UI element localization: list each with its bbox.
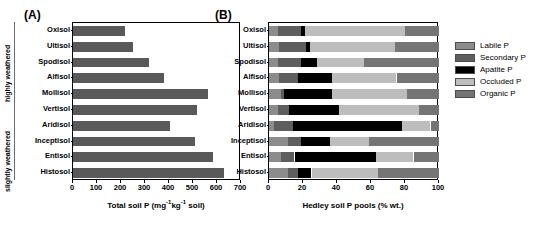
x-axis-tick-label: 20 [298, 184, 306, 192]
stack-segment-apatite-p [301, 137, 330, 147]
stack-segment-organic-p [378, 168, 439, 178]
stack-segment-organic-p [364, 58, 439, 68]
stack-segment-labile-p [269, 137, 288, 147]
table-row [269, 137, 437, 147]
panel-b-y-labels: OxisolUltisolSpodisolAlfisolMollisolVert… [212, 22, 266, 180]
stack-segment-organic-p [431, 121, 440, 131]
x-axis-tick-label: 100 [90, 184, 103, 192]
stack-segment-secondary-p [278, 26, 302, 36]
total-p-bar [73, 89, 208, 99]
category-label: Vertisol [43, 105, 70, 113]
legend-label: Occluded P [480, 77, 521, 87]
stack-segment-occluded-p [312, 168, 378, 178]
stack-segment-occluded-p [330, 137, 369, 147]
category-label: Ultisol [47, 42, 70, 50]
x-axis-tick-label: 0 [70, 184, 74, 192]
category-label: Aridisol [42, 121, 70, 129]
stack-segment-labile-p [269, 73, 279, 83]
stack-segment-occluded-p [310, 42, 395, 52]
category-label: Oxisol [243, 26, 266, 34]
table-row [269, 73, 437, 83]
total-p-bar [73, 168, 224, 178]
legend-swatch-occluded-p [455, 78, 475, 86]
stack-segment-secondary-p [281, 152, 295, 162]
panel-b-legend: Labile PSecondary PApatite POccluded POr… [455, 42, 539, 104]
total-p-bar [73, 73, 164, 83]
x-axis-tick-label: 200 [114, 184, 127, 192]
stack-segment-organic-p [395, 42, 439, 52]
stack-segment-apatite-p [298, 168, 312, 178]
stack-segment-apatite-p [293, 121, 402, 131]
table-row [269, 42, 437, 52]
stack-segment-apatite-p [295, 152, 377, 162]
legend-swatch-secondary-p [455, 54, 475, 62]
x-axis-tick-label: 300 [138, 184, 151, 192]
stack-segment-organic-p [414, 152, 440, 162]
table-row [269, 168, 437, 178]
panel-b-plot-area [268, 22, 438, 180]
x-axis-tick-label: 80 [400, 184, 408, 192]
total-p-bar [73, 121, 170, 131]
stack-segment-organic-p [369, 137, 439, 147]
table-row [269, 105, 437, 115]
panel-a-tag: (A) [24, 8, 41, 22]
stack-segment-labile-p [269, 152, 281, 162]
category-label: Spodisol [38, 58, 70, 66]
stack-segment-secondary-p [288, 137, 302, 147]
stack-segment-occluded-p [402, 121, 431, 131]
category-label: Histosol [236, 168, 266, 176]
stack-segment-occluded-p [332, 73, 397, 83]
category-label: Entisol [241, 152, 266, 160]
x-axis-tick-label: 60 [366, 184, 374, 192]
stack-segment-labile-p [269, 168, 288, 178]
table-row [269, 89, 437, 99]
legend-label: Labile P [480, 41, 509, 51]
category-label: Entisol [45, 152, 70, 160]
total-p-bar [73, 42, 133, 52]
x-axis-tick-label: 0 [266, 184, 270, 192]
stack-segment-apatite-p [289, 105, 338, 115]
stack-segment-labile-p [269, 58, 278, 68]
legend-label: Organic P [480, 89, 516, 99]
panel-b: (B) OxisolUltisolSpodisolAlfisolMollisol… [210, 0, 539, 227]
stack-segment-organic-p [419, 105, 439, 115]
category-label: Ultisol [243, 42, 266, 50]
x-axis-tick-label: 500 [186, 184, 199, 192]
category-label: Histosol [40, 168, 70, 176]
total-p-bar [73, 26, 125, 36]
category-label: Vertisol [239, 105, 266, 113]
stack-segment-secondary-p [288, 168, 298, 178]
stack-segment-secondary-p [278, 105, 290, 115]
category-label: Inceptisol [35, 137, 70, 145]
x-axis-tick-label: 100 [432, 184, 445, 192]
stack-segment-apatite-p [301, 58, 316, 68]
figure-soil-phosphorus: highly weathered slightly weathered (A) … [0, 0, 539, 227]
stack-segment-apatite-p [298, 73, 332, 83]
total-p-bar [73, 105, 197, 115]
panel-a-y-labels: OxisolUltisolSpodisolAlfisolMollisolVert… [16, 22, 70, 180]
stack-segment-occluded-p [339, 105, 419, 115]
stack-segment-labile-p [269, 89, 281, 99]
table-row [269, 26, 437, 36]
stack-segment-secondary-p [279, 42, 306, 52]
panel-b-x-title: Hedley soil P pools (% wt.) [258, 202, 448, 210]
stack-segment-secondary-p [274, 121, 293, 131]
total-p-bar [73, 152, 213, 162]
panel-b-x-axis: 020406080100 [268, 180, 438, 200]
stack-segment-labile-p [269, 105, 278, 115]
category-label: Oxisol [47, 26, 70, 34]
stack-segment-organic-p [397, 73, 440, 83]
table-row [269, 121, 437, 131]
stack-segment-secondary-p [279, 73, 298, 83]
stack-segment-labile-p [269, 42, 279, 52]
legend-swatch-organic-p [455, 90, 475, 98]
panel-b-tag: (B) [215, 8, 232, 22]
stack-segment-occluded-p [376, 152, 413, 162]
legend-swatch-apatite-p [455, 66, 475, 74]
stack-segment-apatite-p [284, 89, 332, 99]
table-row [269, 152, 437, 162]
stack-segment-organic-p [405, 26, 439, 36]
table-row [269, 58, 437, 68]
total-p-bar [73, 58, 149, 68]
stack-segment-occluded-p [305, 26, 405, 36]
